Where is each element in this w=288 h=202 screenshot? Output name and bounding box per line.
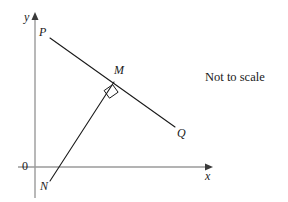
y-axis-arrowhead	[32, 12, 39, 20]
y-axis-label: y	[24, 11, 29, 23]
point-label-m: M	[114, 64, 124, 76]
segment-pq	[50, 38, 175, 127]
point-label-q: Q	[177, 127, 186, 139]
origin-label: 0	[22, 160, 28, 172]
point-label-p: P	[39, 26, 46, 38]
x-axis-label: x	[205, 170, 210, 182]
segment-nm	[50, 82, 114, 181]
geometry-diagram: y x 0 P M Q N Not to scale	[0, 0, 288, 202]
not-to-scale-note: Not to scale	[205, 71, 265, 84]
point-label-n: N	[40, 180, 48, 192]
